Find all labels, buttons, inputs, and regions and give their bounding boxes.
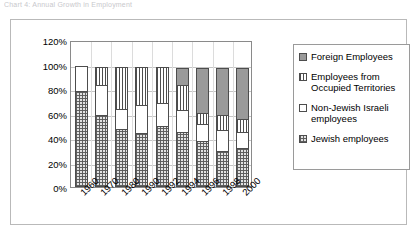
bar-segment[interactable] [176,68,189,86]
bar-segment[interactable] [95,115,108,187]
bar-segment[interactable] [75,91,88,187]
bar-segment[interactable] [216,115,229,131]
bar-group[interactable] [176,68,189,187]
bar-segment[interactable] [216,68,229,116]
bar-group[interactable] [156,67,169,187]
bar-segment[interactable] [176,110,189,133]
bar-segment[interactable] [196,68,209,115]
legend-label: Employees from Occupied Territories [311,71,395,93]
bar-segment[interactable] [95,85,108,117]
legend-label: Non-Jewish Israeli employees [311,102,389,124]
bar-segment[interactable] [115,109,128,130]
bars-layer [71,42,251,187]
y-tick-label: 100% [33,60,67,71]
bar-group[interactable] [95,67,108,187]
bar-segment[interactable] [135,105,148,133]
plot-area [70,41,252,188]
legend-item[interactable]: Non-Jewish Israeli employees [299,102,405,124]
y-tick-label: 40% [33,134,67,145]
legend-item[interactable]: Jewish employees [299,133,405,144]
y-tick-label: 0% [33,183,67,194]
legend-swatch-icon [299,73,307,81]
bar-segment[interactable] [236,132,249,150]
legend-item[interactable]: Foreign Employees [299,51,405,62]
bar-segment[interactable] [75,66,88,92]
legend-swatch-icon [299,104,307,112]
bar-segment[interactable] [115,67,128,110]
bar-segment[interactable] [196,124,209,142]
bar-segment[interactable] [95,67,108,86]
y-tick-label: 20% [33,158,67,169]
y-tick-label: 60% [33,109,67,120]
bar-segment[interactable] [135,67,148,107]
bar-segment[interactable] [156,67,169,104]
bar-segment[interactable] [236,68,249,121]
chart-figure-frame: 120%100%80%60%40%20%0% 19601970198019901… [10,19,407,225]
bar-group[interactable] [115,67,128,187]
chart-legend: Foreign EmployeesEmployees from Occupied… [293,44,410,170]
y-tick-label: 80% [33,85,67,96]
bar-segment[interactable] [176,85,189,111]
bar-group[interactable] [135,67,148,187]
bar-group[interactable] [75,66,88,187]
y-tick-label: 120% [33,36,67,47]
bar-segment[interactable] [216,130,229,153]
y-axis-labels: 120%100%80%60%40%20%0% [29,41,67,188]
bar-group[interactable] [216,68,229,187]
figure-caption: Chart 4: Annual Growth in Employment [4,0,234,9]
bar-segment[interactable] [156,103,169,127]
bar-group[interactable] [236,68,249,187]
legend-label: Foreign Employees [311,51,393,62]
legend-label: Jewish employees [311,133,389,144]
x-axis-labels: 196019701980199019921994199619982000 [70,190,270,236]
legend-swatch-icon [299,53,307,61]
bar-segment[interactable] [236,119,249,132]
legend-swatch-icon [299,135,307,143]
bar-group[interactable] [196,68,209,187]
legend-item[interactable]: Employees from Occupied Territories [299,71,405,93]
